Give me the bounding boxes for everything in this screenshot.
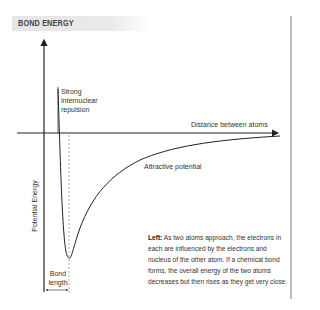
bond-length-label: Bond length [47,269,69,287]
caption: Left: As two atoms approach, the electro… [148,232,290,287]
caption-text: As two atoms approach, the electrons in … [148,234,287,285]
y-axis-label: Potential Energy [31,180,38,231]
x-axis-label: Distance between atoms [191,120,268,129]
repulsion-label: Strong internuclear repulsion [61,87,98,114]
attractive-potential-label: Attractive potential [144,162,202,171]
caption-lead: Left: [148,234,162,241]
